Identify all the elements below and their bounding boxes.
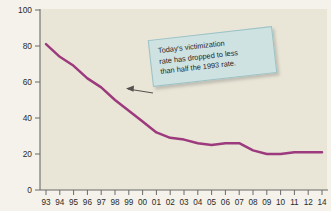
- x-tick-label: 95: [69, 198, 79, 207]
- x-tick-label: 00: [138, 198, 148, 207]
- x-tick-label: 01: [152, 198, 162, 207]
- y-tick-label: 100: [18, 5, 32, 15]
- x-tick-label: 99: [124, 198, 134, 207]
- x-tick-label: 08: [248, 198, 258, 207]
- x-tick-label: 07: [235, 198, 245, 207]
- y-tick-label: 0: [27, 185, 32, 195]
- x-tick-label: 04: [193, 198, 203, 207]
- x-tick-label: 93: [41, 198, 51, 207]
- x-tick-label: 11: [290, 198, 299, 207]
- x-tick-label: 09: [262, 198, 272, 207]
- chart-container: Rate per 1,000 persons age 12 or older 1…: [0, 0, 331, 211]
- x-tick-label: 96: [83, 198, 93, 207]
- y-tick-label: 60: [23, 77, 33, 87]
- x-tick-label: 14: [317, 198, 327, 207]
- x-tick-label: 06: [221, 198, 231, 207]
- x-tick-label: 10: [276, 198, 286, 207]
- y-tick-label: 20: [23, 149, 33, 159]
- x-tick-label: 97: [97, 198, 107, 207]
- x-tick-label: 02: [166, 198, 176, 207]
- line-chart-plot: 100 80 60 40 20 0 9394959697989900010203…: [0, 0, 331, 211]
- y-tick-label: 40: [23, 113, 33, 123]
- x-tick-label: 94: [55, 198, 65, 207]
- x-tick-label: 12: [304, 198, 314, 207]
- y-tick-label: 80: [23, 41, 33, 51]
- x-tick-label: 05: [207, 198, 217, 207]
- x-tick-label: 03: [179, 198, 189, 207]
- x-tick-label: 98: [110, 198, 120, 207]
